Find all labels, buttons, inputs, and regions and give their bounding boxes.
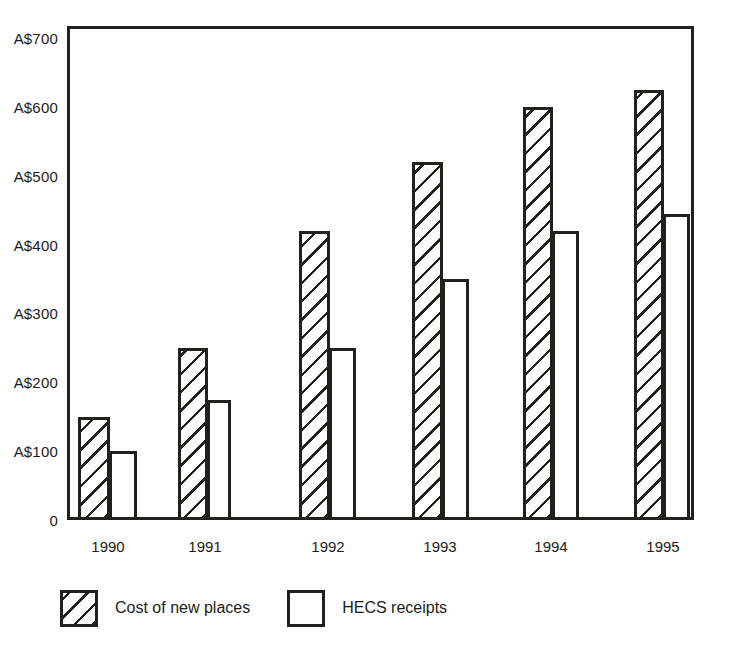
bar-1994-cost-of-new-places xyxy=(523,107,553,520)
bar-1992-hecs-receipts xyxy=(329,348,356,520)
chart-legend: Cost of new placesHECS receipts xyxy=(60,586,447,630)
x-axis-tick-label: 1995 xyxy=(646,538,679,555)
bar-1991-cost-of-new-places xyxy=(178,348,208,520)
bar-1993-cost-of-new-places xyxy=(412,162,443,520)
x-axis-tick-label: 1993 xyxy=(423,538,456,555)
x-axis-tick-label: 1990 xyxy=(91,538,124,555)
bar-1993-hecs-receipts xyxy=(442,279,469,520)
x-axis-tick-label: 1992 xyxy=(311,538,344,555)
legend-label: Cost of new places xyxy=(115,599,250,617)
bar-1992-cost-of-new-places xyxy=(299,231,330,520)
x-axis: 199019911992199319941995 xyxy=(0,520,750,570)
bar-1995-cost-of-new-places xyxy=(634,90,664,520)
bar-1994-hecs-receipts xyxy=(552,231,579,520)
bar-1990-hecs-receipts xyxy=(109,451,137,520)
legend-item: HECS receipts xyxy=(287,590,447,627)
x-axis-tick-label: 1991 xyxy=(188,538,221,555)
legend-swatch-white xyxy=(287,590,325,627)
bar-1991-hecs-receipts xyxy=(207,400,231,521)
bar-1990-cost-of-new-places xyxy=(78,417,110,520)
legend-item: Cost of new places xyxy=(60,590,250,627)
bar-chart: 0A$100A$200A$300A$400A$500A$600A$700 199… xyxy=(0,0,750,654)
bars-layer xyxy=(0,0,750,560)
legend-label: HECS receipts xyxy=(342,599,447,617)
x-axis-tick-label: 1994 xyxy=(534,538,567,555)
legend-swatch-hatched xyxy=(60,590,98,627)
bar-1995-hecs-receipts xyxy=(663,214,690,520)
